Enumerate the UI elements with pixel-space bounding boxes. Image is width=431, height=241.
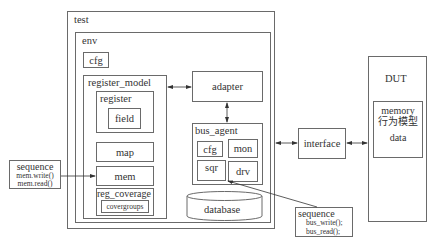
bus-agent-cfg-label: cfg	[203, 144, 216, 155]
behavior-model-label: 行为模型	[378, 116, 418, 128]
sequence-left-block: sequence mem.write() mem.read()	[9, 160, 61, 189]
bus-agent-label: bus_agent	[195, 126, 238, 137]
drv-block: drv	[228, 161, 258, 182]
env-cfg-block: cfg	[83, 52, 109, 68]
dut-label: DUT	[385, 74, 407, 85]
mon-label: mon	[234, 143, 253, 154]
sqr-block: sqr	[197, 160, 226, 181]
bus-agent-cfg-block: cfg	[197, 141, 223, 157]
interface-label: interface	[304, 138, 341, 149]
memory-model-block: memory 行为模型 data	[373, 101, 423, 158]
data-label: data	[390, 132, 407, 144]
env-label: env	[82, 36, 97, 47]
field-block: field	[108, 108, 141, 129]
sequence-right-block: sequence bus_write(); bus_read();	[295, 207, 353, 237]
sequence-left-read: mem.read()	[18, 180, 53, 188]
register-label: register	[100, 94, 132, 105]
sequence-right-read: bus_read();	[306, 228, 340, 237]
mon-block: mon	[228, 139, 258, 158]
covergroups-label: covergroups	[107, 202, 144, 211]
drv-label: drv	[236, 166, 250, 177]
reg-coverage-label: reg_coverage	[97, 189, 151, 199]
sqr-label: sqr	[205, 162, 218, 173]
map-label: map	[116, 147, 134, 158]
env-cfg-label: cfg	[89, 55, 102, 66]
adapter-block: adapter	[192, 71, 263, 102]
map-block: map	[96, 142, 154, 162]
covergroups-block: covergroups	[101, 200, 149, 213]
memory-label: memory	[381, 105, 414, 116]
test-label: test	[74, 15, 89, 26]
database-label: database	[204, 205, 240, 216]
register-model-label: register_model	[88, 78, 151, 89]
mem-label: mem	[115, 171, 136, 182]
field-label: field	[115, 113, 134, 124]
mem-block: mem	[96, 166, 154, 186]
interface-block: interface	[298, 128, 346, 159]
adapter-label: adapter	[212, 81, 243, 92]
